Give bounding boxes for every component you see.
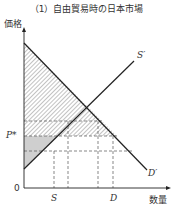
x-axis-label: 数量 [149,193,167,206]
supply-curve-label: S′ [137,50,145,60]
x-axis-arrow-icon [166,186,171,190]
demand-curve-label: D′ [148,168,157,178]
price-label: P* [6,130,17,140]
origin-label: 0 [14,183,20,193]
market-diagram [0,0,173,210]
y-axis-arrow-icon [22,27,26,32]
quantity-supplied-label: S [51,193,57,203]
quantity-demanded-label: D [110,193,117,203]
